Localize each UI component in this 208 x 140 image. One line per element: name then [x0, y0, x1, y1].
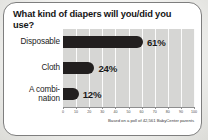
bar [63, 62, 94, 74]
x-axis-tick [129, 107, 130, 109]
category-label-line: Disposable [3, 37, 60, 46]
category-label-line: nation [3, 94, 60, 103]
bar-chart: Based on a poll of 42,561 BabyCenter par… [4, 29, 202, 136]
poll-result-card: What kind of diapers will you/did you us… [3, 2, 202, 136]
gridline [168, 29, 169, 107]
x-axis-tick-label: 80 [161, 110, 175, 114]
bar [63, 88, 79, 100]
bar-value-label: 24% [98, 63, 117, 74]
x-axis-tick [194, 107, 195, 109]
gridline [181, 29, 182, 107]
x-axis-tick-label: 40 [108, 110, 122, 114]
x-axis-tick [168, 107, 169, 109]
category-label-line: Cloth [3, 63, 60, 72]
x-axis-tick-label: 10 [69, 110, 83, 114]
x-axis-tick [102, 107, 103, 109]
x-axis-tick [115, 107, 116, 109]
bar-value-label: 12% [83, 89, 102, 100]
source-note: Based on a poll of 42,561 BabyCenter par… [63, 118, 194, 123]
x-axis-tick-label: 50 [122, 110, 136, 114]
x-axis-tick-label: 0 [56, 110, 70, 114]
gridline [194, 29, 195, 107]
x-axis-tick-label: 90 [174, 110, 188, 114]
category-label-line: A combi- [3, 85, 60, 94]
bar [63, 36, 143, 48]
x-axis-tick-label: 30 [95, 110, 109, 114]
category-label: Cloth [3, 63, 60, 72]
x-axis-tick [181, 107, 182, 109]
x-axis-tick [76, 107, 77, 109]
x-axis-tick [155, 107, 156, 109]
category-label: A combi-nation [3, 85, 60, 104]
category-label: Disposable [3, 37, 60, 46]
bar-value-label: 61% [147, 37, 166, 48]
x-axis-tick [142, 107, 143, 109]
x-axis-tick-label: 60 [135, 110, 149, 114]
x-axis-tick-label: 70 [148, 110, 162, 114]
x-axis-tick [63, 107, 64, 109]
x-axis-tick-label: 100 [187, 110, 201, 114]
x-axis-tick [89, 107, 90, 109]
x-axis-tick-label: 20 [82, 110, 96, 114]
